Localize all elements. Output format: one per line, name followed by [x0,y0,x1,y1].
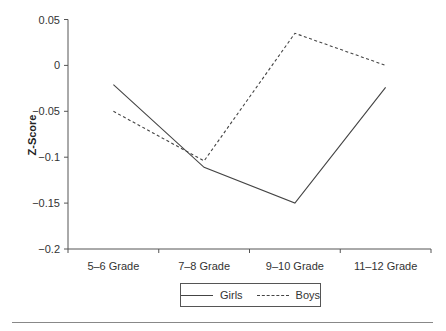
y-tick-label: 0.05 [39,14,60,26]
legend-label-boys: Boys [296,289,320,301]
y-tick-label: −0.2 [38,243,60,255]
y-tick-label: 0 [54,59,60,71]
bottom-divider [12,322,433,323]
dashed-line-swatch-icon [257,295,289,296]
x-tick-label: 7–8 Grade [178,260,230,272]
y-tick-label: −0.1 [38,151,60,163]
x-tick-label: 11–12 Grade [354,260,417,272]
series-lines [113,33,385,203]
legend-label-girls: Girls [220,289,243,301]
line-chart: 0.050−0.05−0.1−0.15−0.2 5–6 Grade7–8 Gra… [0,0,446,331]
series-line-girls [113,85,385,203]
legend: Girls Boys [180,283,321,307]
x-tick-label: 9–10 Grade [266,260,324,272]
legend-item-boys: Boys [257,289,320,301]
y-tick-label: −0.15 [32,197,60,209]
series-line-boys [113,33,385,161]
legend-item-girls: Girls [181,289,243,301]
x-tick-label: 5–6 Grade [87,260,139,272]
solid-line-swatch-icon [181,295,213,296]
x-axis: 5–6 Grade7–8 Grade9–10 Grade11–12 Grade [68,249,431,272]
y-axis-title: Z-Score [26,115,38,156]
